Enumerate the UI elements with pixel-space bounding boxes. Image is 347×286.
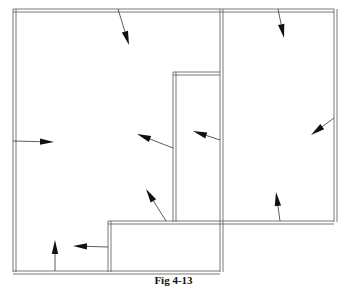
arrow-middle-wall-icon xyxy=(193,131,220,140)
walls xyxy=(13,9,337,274)
wall-outer-right xyxy=(334,9,337,222)
arrow-shelf-up-left-icon xyxy=(146,189,166,221)
wall-outer-top xyxy=(13,9,334,12)
arrows xyxy=(13,9,334,271)
wall-inner-box-left xyxy=(173,72,176,222)
figure-caption: Fig 4-13 xyxy=(0,274,347,286)
arrow-left-wall-icon xyxy=(13,138,54,144)
arrow-bottom-up-icon xyxy=(52,240,58,271)
arrow-right-wall-icon xyxy=(311,118,334,135)
wall-inner-box-top xyxy=(173,72,220,75)
wall-shelf xyxy=(108,221,334,224)
arrow-top-left-room-icon xyxy=(118,9,129,45)
arrow-lower-box-left-icon xyxy=(73,243,108,249)
arrow-inner-box-left-icon xyxy=(137,134,173,148)
wall-middle-wall xyxy=(220,9,223,272)
wall-lower-box-left xyxy=(108,221,111,272)
arrow-top-right-room-icon xyxy=(278,9,284,38)
arrow-shelf-up-right-icon xyxy=(275,192,281,221)
wall-outer-left xyxy=(13,9,16,272)
